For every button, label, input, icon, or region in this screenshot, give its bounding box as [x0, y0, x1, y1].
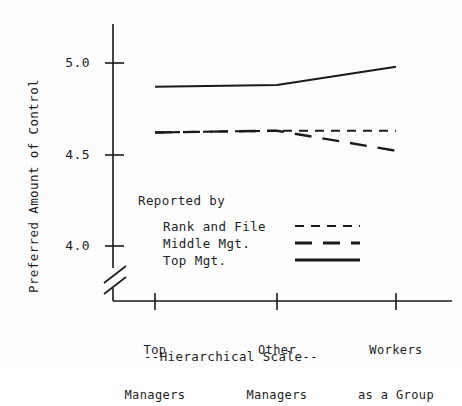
- legend-label-top-mgt: Top Mgt.: [163, 253, 226, 268]
- x-category-line-2: as a Group: [336, 388, 456, 403]
- y-tick-label-4-5: 4.5: [44, 147, 90, 162]
- y-tick-label-4-0: 4.0: [44, 238, 90, 253]
- x-axis-title: --Hierarchical Scale--: [0, 349, 462, 364]
- y-axis-title: Preferred Amount of Control: [26, 79, 41, 293]
- x-category-line-2: Managers: [217, 388, 337, 403]
- legend-title: Reported by: [138, 193, 225, 208]
- y-tick-label-5-0: 5.0: [44, 55, 90, 70]
- series-line-middle-mgt: [155, 131, 396, 151]
- legend-label-middle-mgt: Middle Mgt.: [163, 236, 250, 251]
- x-category-line-2: Managers: [95, 388, 215, 403]
- legend-label-rank-and-file: Rank and File: [163, 219, 266, 234]
- series-line-top-mgt: [155, 67, 396, 87]
